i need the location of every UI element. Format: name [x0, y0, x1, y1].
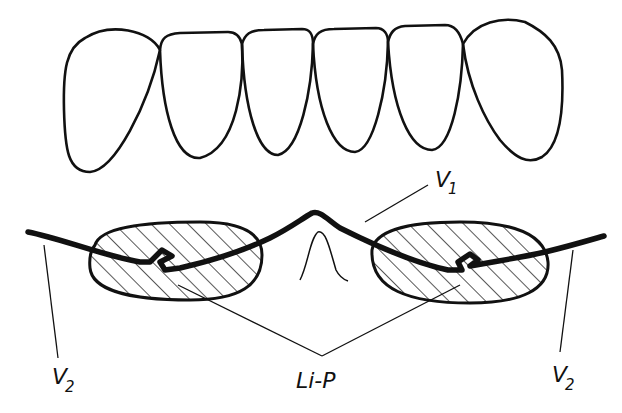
tooth-2 — [160, 32, 242, 158]
tooth-1 — [64, 29, 160, 172]
central-bump — [300, 232, 348, 281]
svg-text:1: 1 — [448, 180, 458, 198]
dental-appliance-diagram: V 1 V 2 V 2 Li-P — [0, 0, 622, 413]
label-v2-left: V 2 — [52, 364, 75, 396]
label-lip: Li-P — [296, 368, 336, 393]
tooth-6 — [463, 20, 562, 160]
v1-leader — [365, 185, 428, 222]
v2-right-leader — [560, 250, 573, 352]
lip-leader-left — [178, 285, 322, 356]
svg-text:2: 2 — [565, 376, 575, 394]
tooth-4 — [313, 28, 388, 152]
teeth-row — [64, 20, 563, 172]
lip-leader-right — [322, 285, 460, 356]
svg-text:Li-P: Li-P — [296, 368, 336, 393]
svg-text:2: 2 — [65, 378, 75, 396]
label-v2-right: V 2 — [552, 362, 575, 394]
left-acrylic-pad — [90, 222, 262, 300]
label-v1: V 1 — [435, 167, 458, 198]
v2-left-leader — [44, 245, 58, 358]
tooth-3 — [242, 29, 313, 155]
tooth-5 — [388, 25, 463, 150]
